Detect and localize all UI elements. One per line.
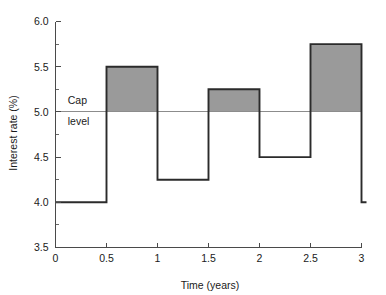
x-tick-label-0: 0 — [53, 252, 59, 264]
interest-rate-cap-chart: 3.54.04.55.05.56.0 00.511.522.53 Capleve… — [0, 0, 386, 295]
y-tick-label-5.5: 5.5 — [34, 61, 49, 73]
chart-canvas: 3.54.04.55.05.56.0 00.511.522.53 Capleve… — [0, 0, 386, 295]
x-tick-label-3: 3 — [359, 252, 365, 264]
y-tick-label-4.5: 4.5 — [34, 151, 49, 163]
x-tick-label-2.5: 2.5 — [303, 252, 318, 264]
excess-region-3 — [209, 89, 260, 112]
y-tick-label-5.0: 5.0 — [34, 106, 49, 118]
x-tick-label-2: 2 — [257, 252, 263, 264]
excess-region-5 — [311, 44, 362, 112]
x-axis-tick-labels: 00.511.522.53 — [53, 252, 365, 264]
x-axis-title: Time (years) — [181, 279, 240, 291]
excess-region-1 — [107, 67, 158, 112]
x-tick-label-0.5: 0.5 — [99, 252, 114, 264]
x-tick-label-1: 1 — [155, 252, 161, 264]
y-axis-title: Interest rate (%) — [7, 95, 19, 170]
x-tick-label-1.5: 1.5 — [201, 252, 216, 264]
y-tick-label-4.0: 4.0 — [34, 196, 49, 208]
y-tick-label-6.0: 6.0 — [34, 15, 49, 27]
cap-label-line1: Cap — [68, 94, 87, 106]
y-tick-label-3.5: 3.5 — [34, 241, 49, 253]
cap-label-line2: level — [68, 115, 90, 127]
